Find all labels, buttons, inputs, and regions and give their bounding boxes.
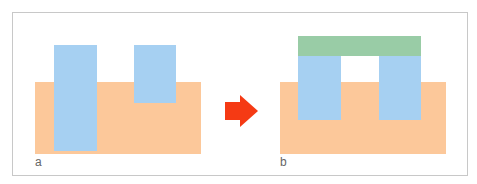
- panel-b-pillar-left: [298, 56, 341, 120]
- right-arrow-icon: [225, 95, 258, 127]
- panel-b-label: b: [280, 155, 287, 169]
- panel-a-pillar-left: [54, 45, 97, 151]
- panel-b-cap: [298, 36, 421, 56]
- panel-a-label: a: [35, 155, 42, 169]
- panel-a-pillar-right: [134, 45, 176, 103]
- panel-b-pillar-right: [379, 56, 421, 120]
